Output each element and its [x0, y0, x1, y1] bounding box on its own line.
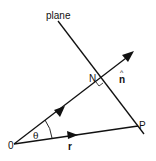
origin-label: 0 — [8, 140, 14, 151]
angle-label: θ — [33, 131, 38, 141]
position-mid-arrow — [67, 131, 78, 139]
point-label-p: P — [139, 120, 146, 131]
plane-label: plane — [46, 10, 71, 21]
normal-mid-arrow — [54, 106, 65, 117]
normal-vector-line — [14, 55, 130, 144]
position-vector-label: r — [68, 141, 72, 152]
angle-arc — [45, 120, 52, 138]
plane-normal-diagram: plane 0 N P n ^ r θ — [0, 0, 156, 161]
foot-label-n: N — [89, 73, 96, 84]
right-angle-mark — [96, 82, 103, 86]
